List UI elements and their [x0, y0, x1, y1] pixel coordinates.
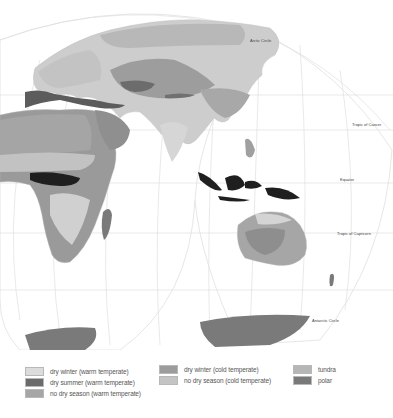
legend-label: dry summer (warm temperate)	[50, 379, 135, 386]
label-tropic-cancer: Tropic of Cancer	[352, 122, 382, 127]
legend-swatch	[25, 389, 44, 398]
climate-map: Arctic Circle Tropic of Cancer Equator T…	[0, 0, 393, 350]
label-antarctic-circle: Antarctic Circle	[312, 318, 340, 323]
region-sahel	[0, 153, 95, 173]
landmass-new-zealand	[329, 274, 334, 287]
legend-item: tundra	[293, 364, 336, 374]
legend-swatch	[25, 367, 44, 376]
label-arctic-circle: Arctic Circle	[250, 38, 272, 43]
landmass-indonesia	[198, 172, 300, 202]
legend-column-cold: dry winter (cold temperate) no dry seaso…	[159, 364, 271, 386]
legend: dry winter (warm temperate) dry summer (…	[0, 366, 393, 416]
legend-label: polar	[318, 377, 332, 384]
landmass-philippines	[245, 139, 255, 158]
legend-item: dry summer (warm temperate)	[25, 377, 141, 387]
legend-item: dry winter (warm temperate)	[25, 366, 141, 376]
legend-swatch	[159, 365, 178, 374]
legend-swatch	[293, 365, 312, 374]
legend-item: polar	[293, 375, 336, 385]
legend-item: no dry season (cold temperate)	[159, 375, 271, 385]
legend-swatch	[25, 378, 44, 387]
legend-label: no dry season (cold temperate)	[184, 377, 271, 384]
legend-item: dry winter (cold temperate)	[159, 364, 271, 374]
legend-label: dry winter (cold temperate)	[184, 366, 259, 373]
legend-column-polar: tundra polar	[293, 364, 336, 386]
landmass-antarctica-right	[200, 315, 310, 347]
label-equator: Equator	[340, 177, 355, 182]
landmass-madagascar	[102, 209, 112, 240]
legend-label: no dry season (warm temperate)	[50, 390, 141, 397]
label-tropic-capricorn: Tropic of Capricorn	[337, 231, 371, 236]
landmass-antarctica-left	[25, 327, 96, 350]
region-sahara-warm-dry	[0, 114, 92, 155]
legend-item: no dry season (warm temperate)	[25, 388, 141, 398]
legend-label: tundra	[318, 366, 336, 373]
legend-swatch	[293, 376, 312, 385]
legend-label: dry winter (warm temperate)	[50, 368, 129, 375]
legend-swatch	[159, 376, 178, 385]
legend-column-warm: dry winter (warm temperate) dry summer (…	[25, 366, 141, 399]
